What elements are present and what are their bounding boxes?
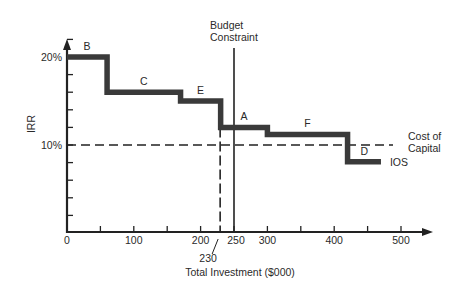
x-tick-label: 300 (259, 234, 277, 246)
series-name-label: IOS (390, 156, 408, 168)
x-ticks: 0100200250300400500 (64, 226, 410, 246)
project-label-c: C (140, 75, 148, 87)
x-tick-label: 400 (325, 234, 343, 246)
x-axis-arrow-icon (422, 228, 433, 236)
project-label-d: D (360, 145, 368, 157)
x-tick-label: 200 (192, 234, 210, 246)
labels: Total Investment ($000) IRR (25, 115, 295, 278)
y-axis-arrow-icon (63, 39, 71, 50)
cost-of-capital-label: Cost of (408, 130, 441, 142)
ios-step-line (67, 57, 381, 162)
y-axis-title: IRR (25, 115, 37, 134)
budget-constraint-label: Budget (210, 19, 243, 31)
x-axis-title: Total Investment ($000) (185, 266, 295, 278)
y-tick-label: 20% (41, 51, 62, 63)
project-label-f: F (304, 117, 310, 129)
budget-constraint-label: Constraint (210, 31, 258, 43)
reference-lines: Cost ofCapitalBudgetConstraint230 (67, 19, 441, 264)
y-tick-label: 10% (41, 139, 62, 151)
project-label-a: A (241, 110, 248, 122)
project-label-b: B (84, 40, 91, 52)
cost-of-capital-label: Capital (408, 142, 441, 154)
x-tick-label: 100 (125, 234, 143, 246)
axes: 10%20% 0100200250300400500 (41, 39, 433, 246)
x-tick-label: 0 (64, 234, 70, 246)
ios-chart: 10%20% 0100200250300400500 Cost ofCapita… (0, 0, 462, 287)
x-tick-label: 250 (227, 234, 245, 246)
marginal-investment-label: 230 (199, 252, 217, 264)
x-tick-label: 500 (392, 234, 410, 246)
series: BCEAFDIOS (67, 40, 408, 168)
project-label-e: E (197, 84, 204, 96)
y-ticks: 10%20% (41, 39, 73, 215)
